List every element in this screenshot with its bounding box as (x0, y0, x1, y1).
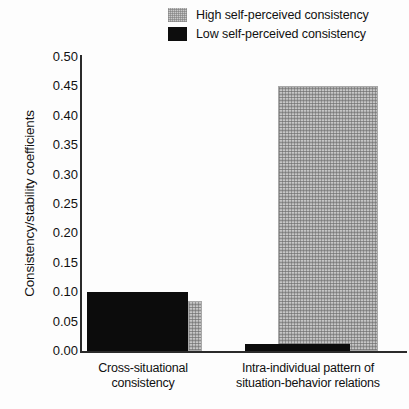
bar-group0-high (188, 301, 202, 351)
y-tick-label: 0.20 (38, 226, 78, 239)
y-tick-label: 0.05 (38, 315, 78, 328)
chart-figure: High self-perceived consistency Low self… (0, 0, 409, 409)
x-axis-label-group-1: Intra-individual pattern of situation-be… (210, 361, 406, 391)
bar-group1-high (278, 86, 378, 351)
bar-group1-low (245, 344, 350, 351)
plot-area: Consistency/stability coefficients 0.500… (0, 0, 409, 409)
y-tick-label: 0.25 (38, 197, 78, 210)
y-axis-ticks: 0.500.450.400.350.300.250.200.150.100.05… (30, 0, 78, 409)
y-tick-label: 0.10 (38, 285, 78, 298)
x-axis-label-group-0: Cross-situational consistency (78, 361, 208, 391)
x-label-line: consistency (78, 376, 208, 391)
x-axis-line (80, 351, 407, 353)
y-tick-label: 0.00 (38, 344, 78, 357)
x-label-line: Intra-individual pattern of (210, 361, 406, 376)
y-axis-line (80, 55, 82, 352)
y-tick-label: 0.30 (38, 168, 78, 181)
y-tick-label: 0.35 (38, 138, 78, 151)
y-tick-label: 0.15 (38, 256, 78, 269)
x-label-line: situation-behavior relations (210, 376, 406, 391)
bar-group0-low (87, 292, 188, 351)
y-tick-label: 0.40 (38, 109, 78, 122)
x-label-line: Cross-situational (78, 361, 208, 376)
y-tick-label: 0.45 (38, 79, 78, 92)
y-tick-label: 0.50 (38, 50, 78, 63)
